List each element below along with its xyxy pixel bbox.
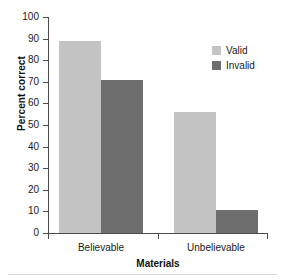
legend-swatch-icon xyxy=(212,61,221,70)
y-tick-label: 70 xyxy=(0,76,39,87)
y-tick-mark xyxy=(43,82,49,83)
x-tick-label-unbelievable: Unbelievable xyxy=(156,242,276,253)
legend-swatch-icon xyxy=(212,46,221,55)
y-tick-label: 10 xyxy=(0,205,39,216)
y-tick-mark xyxy=(43,39,49,40)
y-tick-label: 0 xyxy=(0,227,39,238)
x-tick-mark xyxy=(267,234,268,239)
y-tick-label: 60 xyxy=(0,97,39,108)
bar-unbelievable-valid xyxy=(174,112,216,233)
legend-item-valid[interactable]: Valid xyxy=(212,44,255,57)
x-tick-mark xyxy=(48,234,49,239)
x-tick-label-believable: Believable xyxy=(41,242,161,253)
y-tick-label: 80 xyxy=(0,54,39,65)
y-tick-label: 30 xyxy=(0,162,39,173)
legend-item-invalid[interactable]: Invalid xyxy=(212,59,255,72)
y-tick-label: 20 xyxy=(0,184,39,195)
y-tick-mark xyxy=(43,211,49,212)
y-tick-label: 50 xyxy=(0,119,39,130)
y-tick-mark xyxy=(43,103,49,104)
y-tick-label: 40 xyxy=(0,141,39,152)
y-tick-mark xyxy=(43,60,49,61)
bar-unbelievable-invalid xyxy=(216,210,258,233)
bottom-divider xyxy=(8,274,277,275)
y-tick-label: 90 xyxy=(0,33,39,44)
y-tick-mark xyxy=(43,190,49,191)
y-tick-mark xyxy=(43,168,49,169)
bar-believable-valid xyxy=(59,41,101,233)
y-tick-label: 100 xyxy=(0,11,39,22)
legend-label: Valid xyxy=(226,45,248,56)
x-axis-title: Materials xyxy=(48,258,268,269)
bar-believable-invalid xyxy=(101,80,143,233)
y-tick-mark xyxy=(43,125,49,126)
bar-chart-figure: Percent correct 0102030405060708090100 B… xyxy=(0,0,285,280)
x-tick-mark xyxy=(158,234,159,239)
y-axis-title: Percent correct xyxy=(16,29,27,159)
y-tick-mark xyxy=(43,147,49,148)
y-tick-mark xyxy=(43,17,49,18)
chart-legend: ValidInvalid xyxy=(212,44,255,74)
legend-label: Invalid xyxy=(226,60,255,71)
